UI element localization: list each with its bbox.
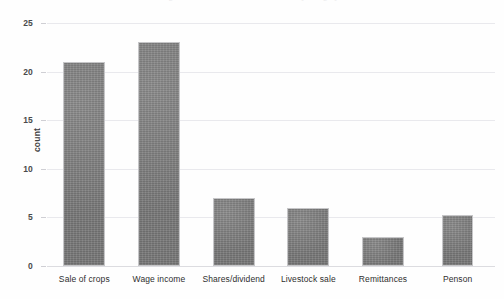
y-tick-mark-25: [41, 23, 46, 24]
x-tick-label-livestock-sale: Livestock sale: [281, 274, 336, 284]
x-tick-label-remittances: Remittances: [359, 274, 407, 284]
x-tick-label-sale-of-crops: Sale of crops: [59, 274, 110, 284]
bar-chart-screenshot: figures of household income sources by c…: [0, 0, 504, 299]
y-tick-label-25: 25: [0, 18, 33, 28]
gridline-15: [47, 120, 495, 121]
cut-off-caption-remnant: figures of household income sources by c…: [0, 0, 504, 2]
x-tick-label-wage-income: Wage income: [133, 274, 186, 284]
gridline-25: [47, 23, 495, 24]
bar-penson: [442, 215, 473, 266]
y-tick-mark-20: [41, 72, 46, 73]
plot-area: 0510152025 count: [47, 23, 495, 266]
x-tick-label-penson: Penson: [443, 274, 472, 284]
bar-livestock-sale: [287, 208, 329, 266]
gridline-20: [47, 72, 495, 73]
y-tick-label-15: 15: [0, 115, 33, 125]
y-tick-label-0: 0: [0, 261, 33, 271]
bar-sale-of-crops: [63, 62, 105, 266]
y-tick-label-5: 5: [0, 212, 33, 222]
y-tick-mark-5: [41, 217, 46, 218]
y-tick-label-20: 20: [0, 67, 33, 77]
gridline-5: [47, 217, 495, 218]
x-tick-label-shares-dividend: Shares/dividend: [202, 274, 264, 284]
y-axis-title: count: [32, 110, 42, 170]
gridline-0: [47, 266, 495, 267]
bar-remittances: [362, 237, 404, 266]
y-tick-label-10: 10: [0, 164, 33, 174]
bar-shares-dividend: [213, 198, 255, 266]
gridline-10: [47, 169, 495, 170]
bar-wage-income: [138, 42, 180, 266]
y-tick-mark-0: [41, 266, 46, 267]
